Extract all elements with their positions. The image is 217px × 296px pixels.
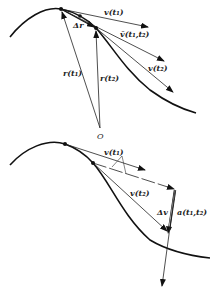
label-acceleration: a(t₁,t₂) — [177, 207, 207, 217]
label-leader-1 — [112, 156, 122, 167]
point-p2-bottom — [91, 161, 95, 165]
label-origin: O — [97, 132, 104, 141]
trajectory-curve-bottom — [10, 142, 210, 258]
label-delta-v: Δv — [156, 207, 168, 217]
label-delta-r: Δr — [72, 20, 84, 30]
point-p1-bottom — [63, 142, 67, 146]
kinematics-diagram: v(t₁) v̄(t₁,t₂) v(t₂) Δr r(t₁) r(t₂) O v… — [0, 0, 217, 296]
label-v-t1-bottom: v(t₁) — [104, 147, 124, 157]
label-leader-2 — [122, 156, 126, 174]
point-mid — [78, 14, 82, 18]
bottom-figure: v(t₁) v(t₂) Δv a(t₁,t₂) — [10, 142, 210, 286]
v-t1-translated-vector — [93, 163, 174, 189]
label-vbar: v̄(t₁,t₂) — [120, 29, 150, 39]
trajectory-curve — [10, 9, 196, 113]
label-r-t2: r(t₂) — [100, 73, 119, 83]
acceleration-vector — [162, 190, 175, 286]
label-v-t1: v(t₁) — [104, 7, 124, 17]
label-v-t2: v(t₂) — [148, 63, 168, 73]
label-v-t2-bottom: v(t₂) — [130, 188, 150, 198]
label-r-t1: r(t₁) — [63, 68, 82, 78]
point-p2 — [94, 26, 98, 30]
point-p1 — [59, 7, 63, 11]
top-figure: v(t₁) v̄(t₁,t₂) v(t₂) Δr r(t₁) r(t₂) O — [10, 7, 196, 141]
